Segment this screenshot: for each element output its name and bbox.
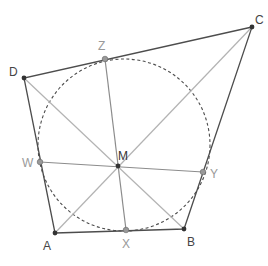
segment-xz [105, 59, 126, 230]
vertex-a [53, 231, 58, 236]
label-b: B [187, 235, 195, 249]
label-a: A [43, 239, 51, 253]
touch-point-w [37, 159, 43, 165]
touch-point-z [102, 56, 108, 62]
diagonal-bd [24, 78, 184, 229]
vertex-c [250, 25, 255, 30]
touch-point-x [123, 227, 129, 233]
point-m [116, 164, 121, 169]
geometry-diagram: A B C D M W X Y Z [0, 0, 268, 266]
label-x: X [122, 237, 130, 251]
label-m: M [118, 149, 128, 163]
inscribed-circle [38, 59, 210, 231]
label-d: D [9, 65, 18, 79]
quadrilateral-abcd [24, 27, 252, 233]
label-z: Z [98, 39, 105, 53]
label-w: W [22, 156, 34, 170]
vertex-b [182, 227, 187, 232]
touch-point-y [200, 169, 206, 175]
label-y: Y [210, 167, 218, 181]
diagonal-ac [55, 27, 252, 233]
vertex-d [22, 76, 27, 81]
label-c: C [255, 13, 264, 27]
